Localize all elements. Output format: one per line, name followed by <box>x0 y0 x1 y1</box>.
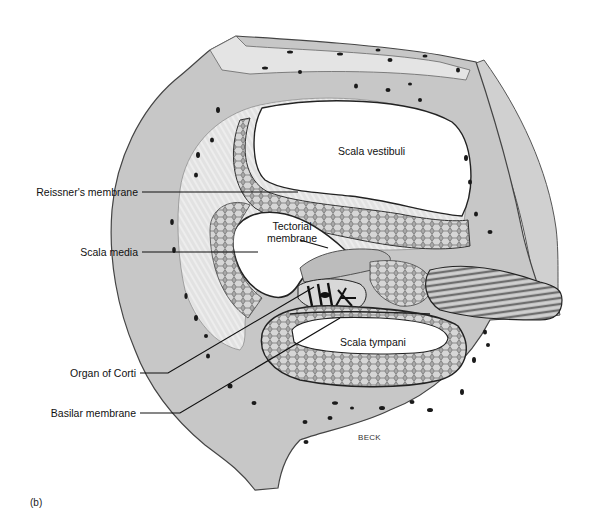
label-basilar-membrane: Basilar membrane <box>20 407 136 419</box>
label-scala-media: Scala media <box>20 246 138 258</box>
cochlea-cross-section-figure: Reissner's membrane Scala media Organ of… <box>0 0 602 519</box>
label-scala-vestibuli: Scala vestibuli <box>338 145 405 157</box>
label-tectorial-line1: Tectorial <box>262 220 322 232</box>
panel-label: (b) <box>30 497 42 508</box>
label-organ-of-corti: Organ of Corti <box>20 367 136 379</box>
cochlea-illustration <box>0 0 602 519</box>
label-tectorial-membrane: Tectorial membrane <box>262 220 322 244</box>
label-reissners-membrane: Reissner's membrane <box>20 186 138 198</box>
label-tectorial-line2: membrane <box>262 232 322 244</box>
label-scala-tympani: Scala tympani <box>340 336 406 348</box>
artist-credit: BECK <box>358 433 381 442</box>
